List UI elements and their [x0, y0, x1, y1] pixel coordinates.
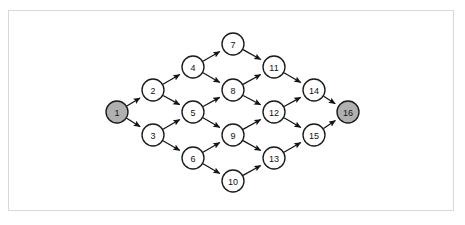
- node-7[interactable]: 7: [222, 33, 244, 55]
- node-circle-16[interactable]: [337, 101, 359, 123]
- edge-14-to-16: [324, 96, 336, 103]
- node-2[interactable]: 2: [142, 79, 164, 101]
- edge-3-to-6: [163, 141, 180, 151]
- node-circle-13[interactable]: [263, 147, 285, 169]
- edge-2-to-4: [163, 75, 180, 85]
- node-11[interactable]: 11: [263, 56, 285, 78]
- node-circle-4[interactable]: [182, 56, 204, 78]
- node-5[interactable]: 5: [182, 101, 204, 123]
- edge-1-to-2: [127, 98, 140, 106]
- node-circle-1[interactable]: [106, 101, 128, 123]
- node-16[interactable]: 16: [337, 101, 359, 123]
- node-circle-5[interactable]: [182, 101, 204, 123]
- node-3[interactable]: 3: [142, 124, 164, 146]
- node-circle-11[interactable]: [263, 56, 285, 78]
- edge-4-to-7: [203, 52, 220, 62]
- node-1[interactable]: 1: [106, 101, 128, 123]
- dag-diagram: 12345678910111213141516: [0, 0, 465, 225]
- edge-6-to-10: [203, 164, 220, 174]
- node-circle-12[interactable]: [263, 101, 285, 123]
- edge-7-to-11: [243, 50, 261, 60]
- edge-9-to-12: [243, 119, 261, 129]
- edge-11-to-14: [284, 73, 301, 83]
- edge-4-to-8: [203, 73, 220, 83]
- node-circle-15[interactable]: [303, 124, 325, 146]
- node-6[interactable]: 6: [182, 147, 204, 169]
- edge-5-to-9: [203, 118, 220, 128]
- node-circle-10[interactable]: [222, 170, 244, 192]
- figure-root: 12345678910111213141516: [0, 0, 465, 225]
- node-14[interactable]: 14: [303, 79, 325, 101]
- edge-2-to-5: [163, 96, 180, 105]
- node-8[interactable]: 8: [222, 79, 244, 101]
- edges-layer: [127, 50, 336, 176]
- node-12[interactable]: 12: [263, 101, 285, 123]
- edge-3-to-5: [163, 120, 180, 130]
- edge-10-to-13: [243, 165, 261, 175]
- node-circle-14[interactable]: [303, 79, 325, 101]
- node-9[interactable]: 9: [222, 124, 244, 146]
- edge-1-to-3: [127, 118, 141, 127]
- edge-15-to-16: [324, 121, 336, 129]
- node-circle-2[interactable]: [142, 79, 164, 101]
- node-15[interactable]: 15: [303, 124, 325, 146]
- node-13[interactable]: 13: [263, 147, 285, 169]
- edge-12-to-15: [284, 118, 301, 128]
- node-circle-7[interactable]: [222, 33, 244, 55]
- node-circle-9[interactable]: [222, 124, 244, 146]
- node-10[interactable]: 10: [222, 170, 244, 192]
- edge-8-to-12: [243, 95, 260, 104]
- node-circle-8[interactable]: [222, 79, 244, 101]
- node-circle-3[interactable]: [142, 124, 164, 146]
- edge-9-to-13: [243, 141, 261, 151]
- edge-6-to-9: [203, 143, 220, 153]
- edge-13-to-15: [284, 143, 301, 153]
- edge-5-to-8: [203, 97, 220, 106]
- node-4[interactable]: 4: [182, 56, 204, 78]
- edge-8-to-11: [243, 74, 261, 84]
- edge-12-to-14: [284, 97, 301, 106]
- node-circle-6[interactable]: [182, 147, 204, 169]
- nodes-layer: 12345678910111213141516: [106, 33, 359, 192]
